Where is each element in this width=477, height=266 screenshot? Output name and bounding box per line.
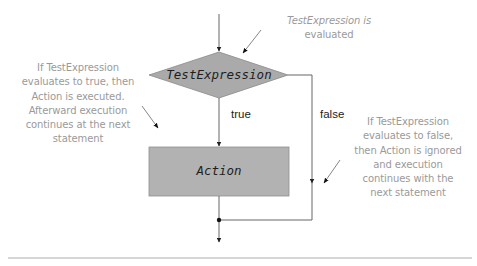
note-line: then Action is ignored [340, 144, 476, 158]
false-connector-upper [288, 75, 312, 183]
note-evaluated: TestExpression is evaluated [268, 14, 390, 43]
decision-label: TestExpression [166, 67, 271, 82]
note-line: evaluates to true, then [10, 75, 146, 89]
note-false-branch: If TestExpression evaluates to false, th… [340, 115, 476, 201]
note-line: and execution [340, 158, 476, 172]
decision-node: TestExpression [149, 52, 288, 98]
note-line: If TestExpression [340, 115, 476, 129]
note-line: TestExpression is [268, 14, 390, 28]
right-note-pointer-arrow [324, 160, 340, 183]
note-line: Action is executed. [10, 90, 146, 104]
action-node: Action [149, 147, 289, 196]
note-line: continues with the [340, 172, 476, 186]
note-line: Afterward execution [10, 104, 146, 118]
note-line: statement [10, 132, 146, 146]
top-note-pointer-arrow [243, 30, 261, 53]
note-line: continues at the next [10, 118, 146, 132]
note-line: next statement [340, 186, 476, 200]
true-label: true [231, 108, 251, 120]
note-line: evaluates to false, [340, 129, 476, 143]
junction-dot [217, 218, 221, 222]
action-label: Action [195, 163, 241, 178]
note-true-branch: If TestExpression evaluates to true, the… [10, 61, 146, 147]
note-line: evaluated [268, 28, 390, 42]
note-line: If TestExpression [10, 61, 146, 75]
